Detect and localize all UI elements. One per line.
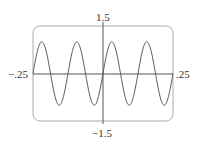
y-max-label: 1.5: [96, 12, 110, 23]
x-min-label: −.25: [8, 69, 28, 80]
x-max-label: .25: [176, 69, 190, 80]
y-min-label: −1.5: [92, 128, 112, 139]
